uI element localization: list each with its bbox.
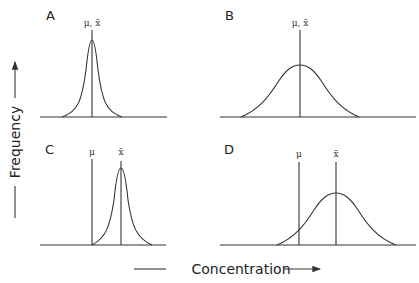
panel-c-mu-symbol: μ	[89, 147, 95, 157]
panel-a-label: A	[46, 8, 55, 23]
panel-c-label: C	[45, 142, 54, 157]
panel-d-label: D	[224, 142, 234, 157]
panel-c-xbar-symbol: x̄	[118, 147, 123, 157]
y-axis: Frequency	[7, 62, 23, 218]
panel-a-mu-xbar-symbol: μ, x̄	[84, 18, 101, 28]
panel-b-label: B	[225, 8, 234, 23]
distribution-figure: A μ, x̄ B μ, x̄ C μ x̄ D μ x̄ Frequency	[0, 0, 419, 283]
panel-a: A μ, x̄	[40, 8, 167, 117]
panel-c: C μ x̄	[40, 142, 166, 245]
x-axis-label: Concentration	[191, 261, 290, 277]
x-axis: Concentration	[134, 261, 320, 277]
panel-b: B μ, x̄	[220, 8, 416, 117]
panel-d-mu-symbol: μ	[296, 149, 302, 159]
panel-d-xbar-symbol: x̄	[333, 149, 338, 159]
panel-c-curve	[92, 168, 152, 245]
panel-b-mu-xbar-symbol: μ, x̄	[292, 18, 309, 28]
panel-d: D μ x̄	[220, 142, 416, 245]
y-axis-label: Frequency	[7, 106, 23, 178]
